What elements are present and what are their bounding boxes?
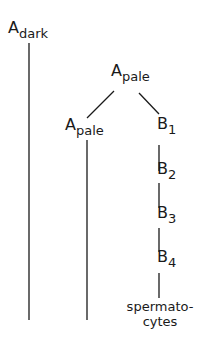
node-main: A (111, 61, 122, 80)
node-a-pale-left: Apale (65, 117, 104, 134)
node-main: A (8, 18, 19, 37)
node-main: A (65, 115, 76, 134)
node-a-dark: Adark (8, 20, 48, 37)
node-spermatocytes: spermato- cytes (124, 299, 196, 329)
edge-apale-to-apale (87, 91, 114, 118)
edge-apale-to-b1 (139, 93, 159, 114)
node-b2: B2 (157, 161, 176, 178)
node-b1: B1 (157, 116, 176, 133)
node-sub: 2 (168, 167, 176, 182)
node-main: B (157, 247, 168, 266)
node-sub: 1 (168, 122, 176, 137)
node-b3: B3 (157, 205, 176, 222)
spermatocytes-line1: spermato- (124, 299, 196, 314)
node-sub: pale (76, 123, 104, 138)
spermatocytes-line2: cytes (124, 314, 196, 329)
node-sub: 4 (168, 255, 176, 270)
node-main: B (157, 203, 168, 222)
node-b4: B4 (157, 249, 176, 266)
node-a-pale-top: Apale (111, 63, 150, 80)
node-sub: 3 (168, 211, 176, 226)
node-main: B (157, 114, 168, 133)
node-main: B (157, 159, 168, 178)
node-sub: pale (122, 69, 150, 84)
lineage-diagram: Adark Apale Apale B1 B2 B3 B4 spermato- … (0, 0, 214, 356)
node-sub: dark (19, 26, 48, 41)
